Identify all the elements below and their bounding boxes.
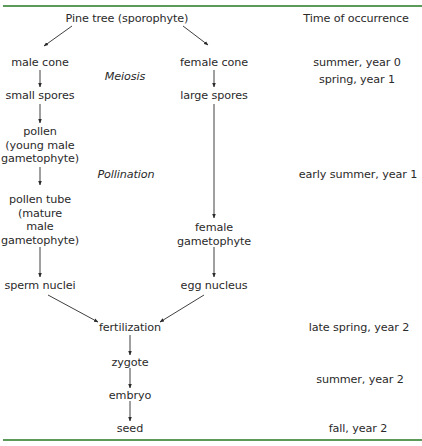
embryo-node: embryo <box>109 389 151 403</box>
pollen-line-2: (young male <box>1 139 79 153</box>
pollen-tube-line-1: pollen tube <box>1 193 79 207</box>
egg-nucleus-node: egg nucleus <box>181 279 248 293</box>
pine-tree-node: Pine tree (sporophyte) <box>66 12 189 26</box>
female-gametophyte-line-1: female <box>177 221 251 235</box>
arrow-tree-to-female-cone <box>183 26 208 45</box>
seed-node: seed <box>117 422 143 436</box>
pollen-node: pollen (young male gametophyte) <box>1 125 79 166</box>
pollen-tube-line-3: male <box>1 220 79 234</box>
pollination-label: Pollination <box>97 168 154 182</box>
meiosis-label: Meiosis <box>105 70 146 84</box>
pollen-tube-line-2: (mature <box>1 207 79 221</box>
pollen-tube-node: pollen tube (mature male gametophyte) <box>1 193 79 247</box>
fertilization-node: fertilization <box>99 321 161 335</box>
small-spores-node: small spores <box>6 89 75 103</box>
female-gametophyte-node: female gametophyte <box>177 221 251 248</box>
time-fall-year-2: fall, year 2 <box>329 422 388 436</box>
pollen-tube-line-4: gametophyte) <box>1 234 79 248</box>
time-spring-year-1: spring, year 1 <box>319 73 395 87</box>
time-summer-year-2: summer, year 2 <box>316 373 404 387</box>
male-cone-node: male cone <box>11 56 68 70</box>
pollen-line-3: gametophyte) <box>1 152 79 166</box>
arrow-tree-to-male-cone <box>44 26 72 46</box>
female-cone-node: female cone <box>180 56 248 70</box>
female-gametophyte-line-2: gametophyte <box>177 235 251 249</box>
time-early-summer-year-1: early summer, year 1 <box>299 168 418 182</box>
sperm-nuclei-node: sperm nuclei <box>5 279 76 293</box>
time-column-header: Time of occurrence <box>303 12 408 26</box>
time-late-spring-year-2: late spring, year 2 <box>309 321 409 335</box>
time-summer-year-0: summer, year 0 <box>313 56 401 70</box>
large-spores-node: large spores <box>180 89 248 103</box>
zygote-node: zygote <box>111 356 148 370</box>
arrow-egg-to-fertilization <box>160 295 204 322</box>
pollen-line-1: pollen <box>1 125 79 139</box>
arrow-sperm-to-fertilization <box>48 295 98 322</box>
